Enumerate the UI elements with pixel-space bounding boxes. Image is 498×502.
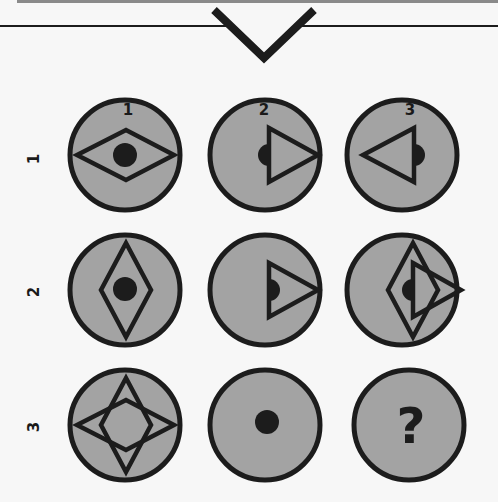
dot-shape — [113, 143, 137, 167]
chevron-down-icon — [214, 10, 314, 58]
puzzle-diagram: ? — [0, 0, 498, 502]
row-label-2: 2 — [24, 282, 44, 302]
cell-r3-c1 — [70, 370, 180, 480]
column-label-1: 1 — [118, 100, 138, 120]
dot-shape — [113, 277, 137, 301]
dot-shape — [255, 410, 279, 434]
cell-r2-c3 — [347, 235, 461, 345]
cell-r3-c3: ? — [354, 370, 464, 480]
question-mark-icon: ? — [396, 397, 425, 455]
cell-r3-c2 — [210, 370, 320, 480]
column-label-2: 2 — [254, 100, 274, 120]
cell-r2-c2 — [210, 235, 320, 345]
column-label-3: 3 — [400, 100, 420, 120]
row-label-1: 1 — [24, 149, 44, 169]
row-label-3: 3 — [24, 417, 44, 437]
cell-r2-c1 — [70, 235, 180, 345]
